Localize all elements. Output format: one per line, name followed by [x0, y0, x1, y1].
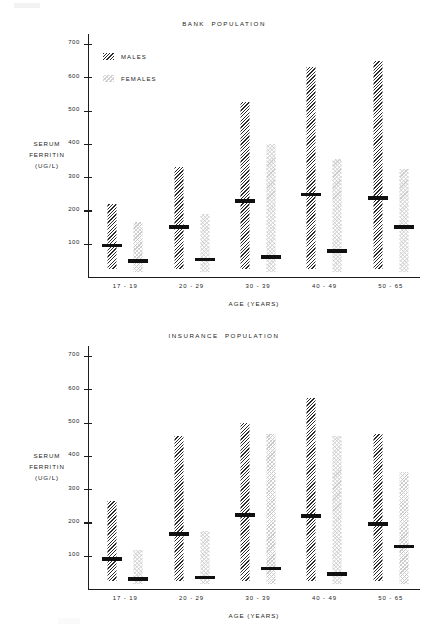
males-swatch-icon: [103, 53, 114, 60]
range-bar-females: [267, 144, 276, 272]
median-marker-males: [235, 199, 255, 203]
x-axis-tick-label: 30 - 39: [246, 595, 271, 601]
y-axis-tick: 600: [84, 77, 92, 78]
range-bar-males: [108, 501, 117, 581]
range-bar-females: [399, 472, 408, 584]
range-bar-males: [373, 434, 382, 580]
y-axis-tick-label: 200: [68, 518, 80, 524]
median-marker-males: [235, 513, 255, 517]
x-axis-tick-label: 40 - 49: [312, 283, 337, 289]
y-axis-tick-label: 100: [68, 551, 80, 557]
x-axis-line: [88, 277, 420, 278]
y-axis-tick-label: 200: [68, 206, 80, 212]
x-axis-tick-label: 30 - 39: [246, 283, 271, 289]
median-marker-females: [195, 258, 215, 262]
y-axis-tick: 200: [84, 210, 92, 211]
range-bar-males: [241, 423, 250, 581]
range-bar-males: [174, 436, 183, 581]
y-axis-tick: 300: [84, 489, 92, 490]
legend-item-females: FEMALES: [103, 74, 157, 83]
median-marker-males: [169, 225, 189, 229]
x-axis-tick-label: 17 - 19: [113, 283, 138, 289]
y-axis-tick-label: 500: [68, 106, 80, 112]
figure-page: BANK POPULATION SERUM FERRITIN (UG/L) 10…: [0, 0, 448, 633]
x-axis-tick-label: 40 - 49: [312, 595, 337, 601]
y-axis-tick: 700: [84, 44, 92, 45]
x-axis-title-bank: AGE (YEARS): [88, 300, 420, 307]
y-axis-tick-label: 600: [68, 385, 80, 391]
median-marker-males: [368, 196, 388, 200]
x-axis-tick-label: 20 - 29: [179, 595, 204, 601]
range-bar-females: [333, 159, 342, 272]
y-axis-tick: 500: [84, 423, 92, 424]
x-axis-tick-label: 17 - 19: [113, 595, 138, 601]
x-axis-title-insurance: AGE (YEARS): [88, 612, 420, 619]
range-bar-females: [134, 222, 143, 272]
y-axis-tick-label: 300: [68, 485, 80, 491]
median-marker-females: [261, 255, 281, 259]
median-marker-females: [394, 545, 414, 549]
median-marker-females: [128, 259, 148, 263]
legend-item-males: MALES: [103, 52, 157, 61]
y-axis-tick-label: 700: [68, 351, 80, 357]
chart-panel-insurance: INSURANCE POPULATION SERUM FERRITIN (UG/…: [0, 322, 448, 633]
chart-title-bank: BANK POPULATION: [0, 20, 448, 27]
range-bar-males: [108, 204, 117, 269]
median-marker-females: [327, 249, 347, 253]
range-bar-males: [174, 167, 183, 269]
x-axis-tick-label: 20 - 29: [179, 283, 204, 289]
y-axis-tick: 700: [84, 356, 92, 357]
median-marker-males: [102, 244, 122, 248]
y-axis-tick: 500: [84, 111, 92, 112]
range-bar-females: [200, 214, 209, 272]
legend-label-males: MALES: [121, 54, 147, 60]
chart-panel-bank: BANK POPULATION SERUM FERRITIN (UG/L) 10…: [0, 10, 448, 320]
y-axis-tick: 300: [84, 177, 92, 178]
y-axis-line: [88, 346, 89, 589]
range-bar-females: [267, 434, 276, 584]
y-axis-tick-label: 700: [68, 39, 80, 45]
median-marker-females: [195, 576, 215, 580]
median-marker-females: [261, 567, 281, 571]
y-axis-tick-label: 400: [68, 139, 80, 145]
y-axis-tick-label: 300: [68, 173, 80, 179]
range-bar-males: [307, 398, 316, 581]
range-bar-males: [241, 102, 250, 268]
range-bar-females: [333, 436, 342, 584]
scan-artifact-top: [14, 3, 40, 8]
females-swatch-icon: [103, 75, 114, 82]
x-axis-tick-label: 50 - 65: [378, 283, 403, 289]
median-marker-males: [301, 193, 321, 197]
y-axis-tick: 100: [84, 244, 92, 245]
chart-title-insurance: INSURANCE POPULATION: [0, 332, 448, 339]
median-marker-males: [102, 557, 122, 561]
median-marker-females: [394, 225, 414, 229]
median-marker-males: [301, 514, 321, 518]
y-axis-tick-label: 500: [68, 418, 80, 424]
y-axis-tick-label: 100: [68, 239, 80, 245]
range-bar-males: [373, 61, 382, 269]
x-axis-line: [88, 589, 420, 590]
y-axis-tick-label: 400: [68, 451, 80, 457]
legend-label-females: FEMALES: [121, 76, 157, 82]
y-axis-tick: 100: [84, 556, 92, 557]
legend: MALES FEMALES: [103, 52, 157, 96]
range-bar-females: [399, 169, 408, 272]
median-marker-females: [128, 577, 148, 581]
y-axis-tick-label: 600: [68, 73, 80, 79]
y-axis-line: [88, 34, 89, 277]
median-marker-males: [169, 532, 189, 536]
y-axis-tick: 400: [84, 456, 92, 457]
x-axis-tick-label: 50 - 65: [378, 595, 403, 601]
median-marker-males: [368, 522, 388, 526]
y-axis-tick: 400: [84, 144, 92, 145]
y-axis-tick: 200: [84, 522, 92, 523]
y-axis-tick: 600: [84, 389, 92, 390]
median-marker-females: [327, 572, 347, 576]
range-bar-males: [307, 67, 316, 268]
plot-area-insurance: 10020030040050060070017 - 1920 - 2930 - …: [88, 346, 424, 589]
